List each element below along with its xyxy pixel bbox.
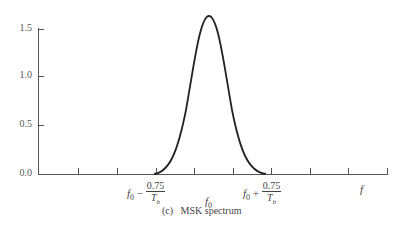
y-tick-label-0.5: 0.5 — [4, 118, 32, 129]
x-label-f0-plus: f0 + 0.75Tb — [243, 180, 281, 208]
y-tick-label-1.5: 1.5 — [4, 22, 32, 33]
x-label-f0-minus: f0 − 0.75Tb — [127, 180, 165, 208]
x-ticks — [79, 168, 388, 174]
x-axis-label: f — [360, 183, 363, 195]
msk-spectrum-curve — [154, 16, 266, 174]
y-tick-label-1.0: 1.0 — [4, 69, 32, 80]
chart-caption: (c) MSK spectrum — [162, 205, 241, 216]
y-tick-label-0.0: 0.0 — [4, 167, 32, 178]
chart-plot-area — [0, 0, 407, 229]
